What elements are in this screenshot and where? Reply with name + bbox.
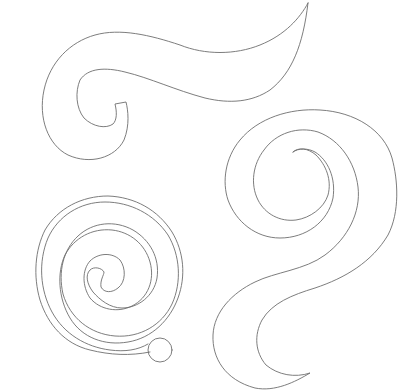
background [0,0,415,391]
line-art-canvas [0,0,415,391]
swirl-illustration [0,0,415,391]
